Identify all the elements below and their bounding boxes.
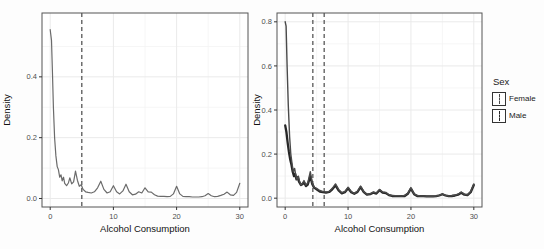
left-density-chart: 01020300.00.20.4Alcohol ConsumptionDensi…	[0, 0, 250, 249]
x-tick-label: 0	[283, 212, 287, 221]
y-tick-label: 0.4	[262, 106, 272, 115]
legend-label-male: Male	[509, 112, 526, 120]
right-density-plot-svg: 01020300.00.20.40.60.8Alcohol Consumptio…	[250, 0, 490, 249]
x-tick-label: 10	[109, 212, 117, 221]
right-density-chart: 01020300.00.20.40.60.8Alcohol Consumptio…	[250, 0, 490, 249]
x-tick-label: 20	[172, 212, 180, 221]
y-axis-title: Density	[1, 94, 12, 126]
male-dashed-line-icon	[499, 111, 500, 121]
y-tick-label: 0.2	[27, 133, 37, 142]
legend-entry-male: Male	[492, 109, 526, 123]
x-axis-title: Alcohol Consumption	[335, 223, 425, 234]
female-dashed-line-icon	[499, 94, 500, 104]
y-tick-label: 0.0	[262, 194, 272, 203]
x-tick-label: 10	[344, 212, 352, 221]
legend-key-female	[492, 92, 506, 106]
y-tick-label: 0.8	[262, 17, 272, 26]
legend-key-male	[492, 109, 506, 123]
sex-legend: Sex Female Male	[490, 0, 544, 249]
y-tick-label: 0.4	[27, 72, 37, 81]
left-density-plot-svg: 01020300.00.20.4Alcohol ConsumptionDensi…	[0, 0, 250, 249]
x-tick-label: 20	[407, 212, 415, 221]
density-plots-figure: 01020300.00.20.4Alcohol ConsumptionDensi…	[0, 0, 544, 249]
y-axis-title: Density	[251, 94, 262, 126]
legend-label-female: Female	[509, 95, 536, 103]
y-tick-label: 0.0	[27, 194, 37, 203]
x-tick-label: 0	[48, 212, 52, 221]
x-axis-title: Alcohol Consumption	[100, 223, 190, 234]
y-tick-label: 0.2	[262, 150, 272, 159]
legend-entry-female: Female	[492, 92, 536, 106]
legend-title: Sex	[493, 76, 509, 87]
x-tick-label: 30	[470, 212, 478, 221]
x-tick-label: 30	[236, 212, 244, 221]
y-tick-label: 0.6	[262, 62, 272, 71]
